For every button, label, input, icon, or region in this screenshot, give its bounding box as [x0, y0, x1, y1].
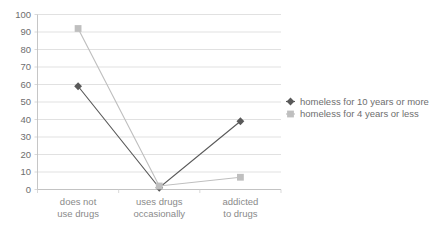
gridlines-group [35, 15, 282, 190]
series-line [78, 29, 240, 187]
y-tick-label: 40 [20, 114, 31, 125]
x-category-label: occasionally [133, 208, 185, 219]
square-marker-icon [237, 174, 244, 181]
chart-canvas: 0102030405060708090100 does notuse drugs… [0, 0, 431, 236]
x-category-label: uses drugs [136, 196, 183, 207]
line-chart: 0102030405060708090100 does notuse drugs… [0, 0, 431, 236]
y-tick-label: 90 [20, 26, 31, 37]
y-tick-label: 80 [20, 44, 31, 55]
square-marker-icon [156, 183, 163, 190]
y-tick-label: 70 [20, 61, 31, 72]
y-tick-label: 100 [15, 9, 31, 20]
x-axis-category-labels: does notuse drugsuses drugsoccasionallya… [57, 196, 258, 219]
legend-item-label: homeless for 10 years or more [300, 96, 429, 107]
series-markers-group [74, 25, 244, 192]
y-tick-label: 50 [20, 96, 31, 107]
y-tick-label: 20 [20, 149, 31, 160]
x-category-label: to drugs [223, 208, 258, 219]
x-category-label: does not [60, 196, 97, 207]
x-category-label: addicted [222, 196, 258, 207]
square-marker-icon [75, 25, 82, 32]
diamond-marker-icon [287, 98, 295, 106]
y-tick-label: 0 [26, 184, 31, 195]
y-tick-label: 10 [20, 166, 31, 177]
y-axis-tick-labels: 0102030405060708090100 [15, 9, 31, 195]
chart-legend: homeless for 10 years or morehomeless fo… [286, 96, 429, 120]
legend-item-label: homeless for 4 years or less [300, 108, 419, 119]
y-tick-label: 60 [20, 79, 31, 90]
series-lines-group [78, 29, 240, 188]
x-category-label: use drugs [57, 208, 99, 219]
y-tick-label: 30 [20, 131, 31, 142]
square-marker-icon [287, 111, 294, 118]
